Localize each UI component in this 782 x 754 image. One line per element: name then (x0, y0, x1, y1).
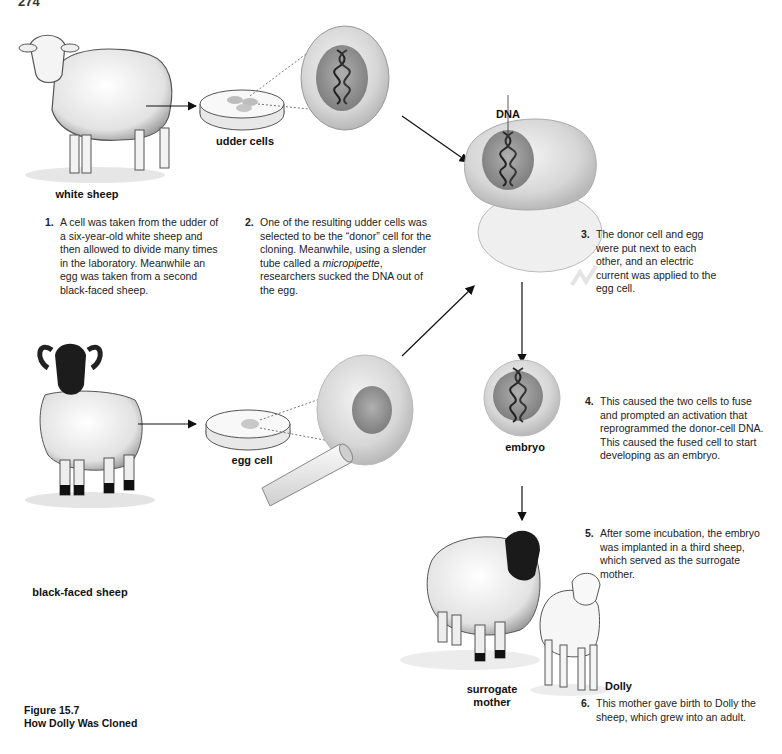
dolly-lamb-illustration (530, 573, 610, 696)
arrow-to-fusion (402, 116, 468, 162)
label-dolly: Dolly (605, 680, 645, 692)
donor-cell-illustration (301, 26, 389, 130)
label-black-faced-sheep: black-faced sheep (20, 586, 140, 598)
step-6-number: 6. (581, 697, 590, 711)
step-4-text: This caused the two cells to fuse and pr… (585, 395, 765, 463)
step-6-text: This mother gave birth to Dolly the shee… (581, 697, 776, 724)
figure-number: Figure 15.7 (24, 704, 137, 717)
step-5-number: 5. (585, 527, 594, 541)
step-2-number: 2. (245, 216, 254, 230)
label-embryo: embryo (500, 441, 550, 453)
figure-caption: Figure 15.7 How Dolly Was Cloned (24, 704, 137, 730)
label-surrogate-mother: surrogate mother (462, 683, 522, 709)
step-3-text: The donor cell and egg were put next to … (581, 228, 721, 296)
term-micropipette: micropipette (322, 257, 379, 269)
label-udder-cells: udder cells (210, 135, 280, 147)
step-1-number: 1. (45, 216, 54, 230)
figure-title: How Dolly Was Cloned (24, 717, 137, 730)
step-2: 2. One of the resulting udder cells was … (245, 216, 435, 297)
label-egg-cell: egg cell (222, 454, 282, 466)
step-1-text: A cell was taken from the udder of a six… (45, 216, 245, 297)
step-3: 3. The donor cell and egg were put next … (581, 228, 721, 296)
udder-cells-dish-illustration (200, 90, 284, 130)
label-surrogate-line2: mother (462, 696, 522, 709)
step-1: 1. A cell was taken from the udder of a … (45, 216, 245, 297)
step-4: 4. This caused the two cells to fuse and… (585, 395, 765, 463)
step-2-text: One of the resulting udder cells was sel… (245, 216, 435, 297)
step-3-number: 3. (581, 228, 590, 242)
surrogate-mother-illustration (400, 531, 540, 670)
embryo-illustration (484, 360, 560, 436)
diagram-artwork (0, 0, 782, 754)
label-surrogate-line1: surrogate (462, 683, 522, 696)
black-faced-sheep-illustration (25, 344, 155, 508)
step-5: 5. After some incubation, the embryo was… (585, 527, 770, 581)
step-4-number: 4. (585, 395, 594, 409)
egg-cell-dish-illustration (206, 410, 290, 450)
step-5-text: After some incubation, the embryo was im… (585, 527, 770, 581)
white-sheep-illustration (19, 35, 172, 183)
label-white-sheep: white sheep (42, 188, 132, 200)
label-dna: DNA (493, 108, 523, 120)
step-6: 6. This mother gave birth to Dolly the s… (581, 697, 776, 724)
